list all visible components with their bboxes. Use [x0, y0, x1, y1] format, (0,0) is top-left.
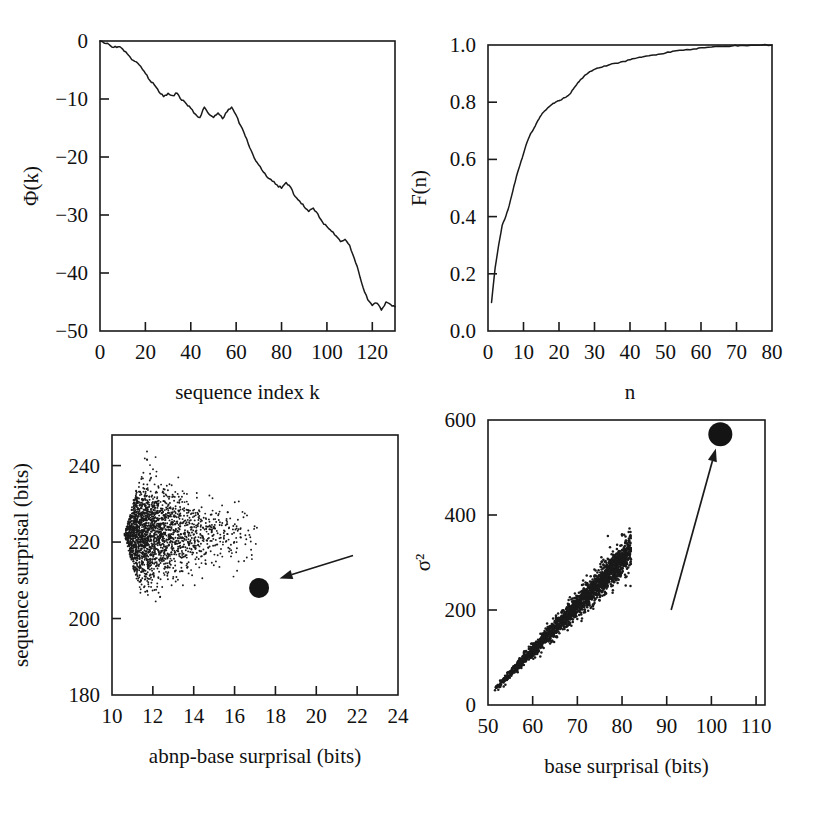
y-tick-label: 400 [445, 503, 477, 527]
x-tick-label: 20 [549, 340, 570, 364]
scatter-cloud [124, 451, 258, 603]
x-tick-label: 0 [483, 340, 494, 364]
annotation-arrowhead [280, 570, 294, 579]
scatter-cloud [494, 527, 633, 691]
y-tick-label: 0.6 [450, 147, 476, 171]
data-curve [492, 45, 772, 303]
x-tick-label: 90 [656, 714, 677, 738]
x-tick-label: 30 [584, 340, 605, 364]
panel-sequence-vs-abnp-surprisal: 1012141618202224180200220240abnp-base su… [0, 400, 410, 820]
x-tick-label: 80 [271, 340, 292, 364]
svg-text:σ²: σ² [411, 554, 435, 572]
x-tick-label: 16 [224, 704, 245, 728]
y-tick-label: 0.4 [450, 205, 477, 229]
y-tick-label: −50 [55, 319, 88, 343]
x-tick-label: 60 [226, 340, 247, 364]
x-tick-label: 20 [135, 340, 156, 364]
y-tick-label: 0.8 [450, 90, 476, 114]
x-tick-label: 60 [522, 714, 543, 738]
x-tick-label: 0 [95, 340, 106, 364]
four-panel-figure: 020406080100120−50−40−30−20−100sequence … [0, 0, 814, 820]
x-tick-label: 120 [357, 340, 389, 364]
y-tick-label: 240 [69, 454, 101, 478]
y-tick-label: −40 [55, 261, 88, 285]
y-tick-label: −10 [55, 87, 88, 111]
y-tick-label: 220 [69, 530, 101, 554]
y-tick-label: 600 [445, 408, 477, 432]
x-tick-label: 110 [741, 714, 772, 738]
x-axis-label: base surprisal (bits) [544, 754, 708, 778]
x-axis-label: abnp-base surprisal (bits) [149, 744, 361, 768]
x-tick-label: 18 [265, 704, 286, 728]
x-tick-label: 40 [620, 340, 641, 364]
x-tick-label: 80 [762, 340, 783, 364]
y-tick-label: 0 [466, 693, 477, 717]
x-tick-label: 100 [311, 340, 343, 364]
x-tick-label: 100 [696, 714, 728, 738]
annotation-arrowhead [708, 449, 717, 463]
panel-cdf-F-of-n: 010203040506070800.00.20.40.60.81.0nF(n) [404, 0, 814, 410]
x-tick-label: 22 [347, 704, 368, 728]
x-tick-label: 50 [655, 340, 676, 364]
x-tick-label: 10 [513, 340, 534, 364]
x-tick-label: 10 [102, 704, 123, 728]
x-tick-label: 60 [691, 340, 712, 364]
annotation-arrow [671, 461, 712, 610]
highlight-point [249, 578, 269, 598]
x-tick-label: 80 [612, 714, 633, 738]
x-tick-label: 12 [142, 704, 163, 728]
annotation-arrow [292, 555, 353, 574]
x-tick-label: 70 [726, 340, 747, 364]
x-tick-label: 14 [183, 704, 205, 728]
axes-frame [112, 435, 398, 695]
y-tick-label: −30 [55, 203, 88, 227]
y-axis-label: sequence surprisal (bits) [9, 463, 33, 667]
svg-text:Φ(k): Φ(k) [19, 166, 43, 206]
y-tick-label: 200 [69, 607, 101, 631]
axes-frame [100, 41, 395, 331]
x-tick-label: 20 [306, 704, 327, 728]
y-tick-label: 0 [78, 29, 89, 53]
x-tick-label: 40 [180, 340, 201, 364]
x-tick-label: 70 [567, 714, 588, 738]
panel-sigma2-vs-base-surprisal: 50607080901001100200400600base surprisal… [404, 400, 814, 820]
y-tick-label: 1.0 [450, 33, 476, 57]
x-tick-label: 50 [478, 714, 499, 738]
data-curve [100, 41, 395, 310]
y-tick-label: −20 [55, 145, 88, 169]
y-tick-label: 180 [69, 683, 101, 707]
svg-text:F(n): F(n) [407, 170, 431, 206]
highlight-point [708, 422, 732, 446]
svg-text:sequence surprisal (bits): sequence surprisal (bits) [9, 463, 33, 667]
axes-frame [488, 45, 772, 331]
y-tick-label: 0.2 [450, 262, 476, 286]
y-tick-label: 0.0 [450, 319, 476, 343]
y-axis-label: Φ(k) [19, 166, 43, 206]
y-axis-label: F(n) [407, 170, 431, 206]
y-axis-label: σ² [411, 554, 435, 572]
y-tick-label: 200 [445, 598, 477, 622]
panel-phi-vs-k: 020406080100120−50−40−30−20−100sequence … [0, 0, 410, 410]
